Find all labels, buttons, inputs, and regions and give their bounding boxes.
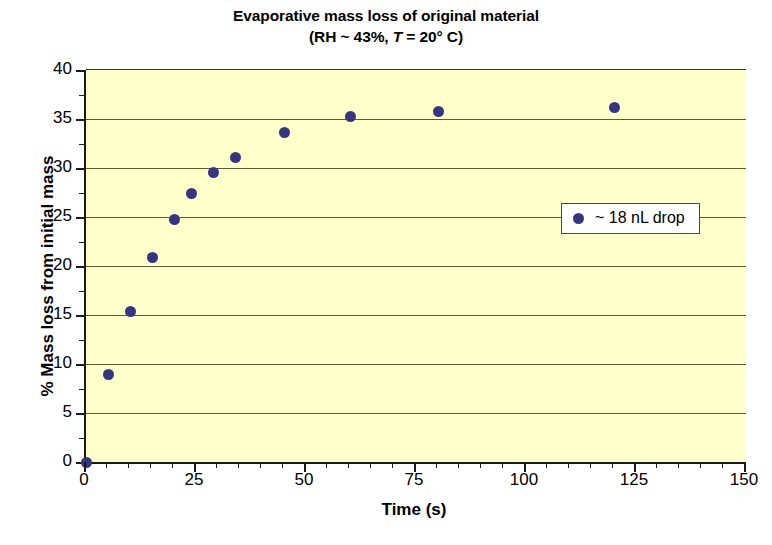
data-point [609, 102, 620, 113]
x-minor-tick [568, 462, 569, 468]
chart-subtitle: (RH ~ 43%, T = 20° C) [0, 26, 772, 47]
x-minor-tick [612, 462, 613, 468]
y-tick-mark [76, 217, 84, 219]
chart-figure: Evaporative mass loss of original materi… [0, 0, 772, 545]
y-tick-label: 35 [32, 108, 72, 128]
x-minor-tick [656, 462, 657, 468]
y-tick-label: 30 [32, 157, 72, 177]
x-tick-label: 75 [384, 470, 444, 490]
y-tick-mark [76, 70, 84, 72]
x-minor-tick [392, 462, 393, 468]
x-minor-tick [326, 462, 327, 468]
x-tick-label: 25 [164, 470, 224, 490]
x-minor-tick [678, 462, 679, 468]
data-point [81, 457, 92, 468]
data-point [103, 369, 114, 380]
x-minor-tick [436, 462, 437, 468]
gridline [86, 168, 746, 169]
y-tick-label: 15 [32, 304, 72, 324]
y-tick-mark [76, 413, 84, 415]
y-tick-mark [76, 364, 84, 366]
gridline [86, 364, 746, 365]
data-point [186, 188, 197, 199]
y-tick-label: 5 [32, 402, 72, 422]
y-tick-label: 10 [32, 353, 72, 373]
x-minor-tick [238, 462, 239, 468]
x-tick-label: 100 [494, 470, 554, 490]
data-point [125, 306, 136, 317]
x-tick-label: 150 [714, 470, 772, 490]
x-minor-tick [370, 462, 371, 468]
data-point [230, 152, 241, 163]
legend-marker-icon [573, 213, 584, 224]
plot-top-edge [86, 69, 746, 70]
legend[interactable]: ~ 18 nL drop [561, 203, 700, 234]
legend-label: ~ 18 nL drop [595, 209, 685, 227]
x-tick-label: 125 [604, 470, 664, 490]
y-tick-label: 0 [32, 451, 72, 471]
gridline [86, 119, 746, 120]
title-block: Evaporative mass loss of original materi… [0, 6, 772, 47]
data-point [433, 106, 444, 117]
x-minor-tick [172, 462, 173, 468]
x-minor-tick [458, 462, 459, 468]
y-tick-label: 40 [32, 59, 72, 79]
y-tick-mark [76, 168, 84, 170]
gridline [86, 413, 746, 414]
x-minor-tick [150, 462, 151, 468]
x-minor-tick [106, 462, 107, 468]
gridline [86, 266, 746, 267]
data-point [147, 252, 158, 263]
x-minor-tick [480, 462, 481, 468]
y-tick-mark [76, 266, 84, 268]
data-point [279, 127, 290, 138]
subtitle-suffix: = 20° C) [402, 28, 463, 45]
y-tick-label: 25 [32, 206, 72, 226]
data-point [169, 214, 180, 225]
x-minor-tick [590, 462, 591, 468]
y-tick-mark [76, 119, 84, 121]
x-minor-tick [282, 462, 283, 468]
chart-title: Evaporative mass loss of original materi… [0, 6, 772, 26]
x-minor-tick [348, 462, 349, 468]
x-tick-label: 0 [54, 470, 114, 490]
x-minor-tick [216, 462, 217, 468]
x-minor-tick [128, 462, 129, 468]
x-minor-tick [700, 462, 701, 468]
data-point [345, 111, 356, 122]
gridline [86, 315, 746, 316]
subtitle-italic-symbol: T [393, 28, 402, 45]
x-minor-tick [546, 462, 547, 468]
y-tick-label: 20 [32, 255, 72, 275]
plot-area [84, 70, 746, 464]
data-point [208, 167, 219, 178]
x-minor-tick [722, 462, 723, 468]
y-tick-mark [76, 315, 84, 317]
x-minor-tick [502, 462, 503, 468]
subtitle-prefix: (RH ~ 43%, [309, 28, 393, 45]
x-tick-label: 50 [274, 470, 334, 490]
x-minor-tick [260, 462, 261, 468]
x-axis-title: Time (s) [84, 500, 744, 520]
